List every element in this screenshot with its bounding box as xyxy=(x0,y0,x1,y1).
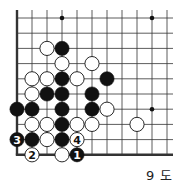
move-number: 1 xyxy=(73,149,81,162)
star-point-icon xyxy=(60,16,65,21)
black-stone xyxy=(55,41,69,55)
white-stone xyxy=(55,57,69,71)
move-number: 3 xyxy=(13,134,21,147)
black-stone-move-1: 1 xyxy=(70,148,84,162)
white-stone-move-2: 2 xyxy=(25,148,39,162)
white-stone xyxy=(40,117,54,131)
black-stone xyxy=(55,102,69,116)
black-stone xyxy=(25,102,39,116)
white-stone xyxy=(55,148,69,162)
white-stone xyxy=(40,133,54,147)
white-stone xyxy=(130,117,144,131)
white-stone xyxy=(85,117,99,131)
black-stone xyxy=(55,133,69,147)
move-number: 2 xyxy=(28,149,36,162)
white-stone xyxy=(70,72,84,86)
black-stone xyxy=(55,72,69,86)
white-stone xyxy=(25,117,39,131)
black-stone xyxy=(40,87,54,101)
black-stone xyxy=(55,87,69,101)
black-stone xyxy=(100,72,114,86)
diagram-caption: 9 도 xyxy=(146,165,173,184)
white-stone xyxy=(40,72,54,86)
black-stone xyxy=(85,87,99,101)
white-stone xyxy=(70,117,84,131)
star-point-icon xyxy=(150,16,155,21)
go-board-diagram: 3421 xyxy=(0,0,186,189)
black-stone-move-3: 3 xyxy=(10,133,24,147)
move-number: 4 xyxy=(73,134,81,147)
black-stone xyxy=(55,117,69,131)
star-point-icon xyxy=(150,107,155,112)
black-stone xyxy=(10,102,24,116)
white-stone xyxy=(100,102,114,116)
black-stone xyxy=(25,133,39,147)
black-stone xyxy=(85,102,99,116)
white-stone xyxy=(85,57,99,71)
white-stone xyxy=(25,72,39,86)
white-stone xyxy=(40,41,54,55)
white-stone-move-4: 4 xyxy=(70,133,84,147)
board-grid xyxy=(16,10,173,155)
white-stone xyxy=(25,87,39,101)
